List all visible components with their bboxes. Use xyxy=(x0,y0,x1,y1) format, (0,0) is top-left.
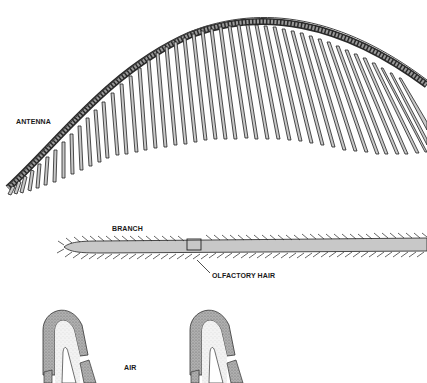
olfactory-hair-leader xyxy=(197,260,210,273)
branch-label: BRANCH xyxy=(112,225,143,232)
hair-cross-section-right xyxy=(190,310,243,383)
hair-cross-section-left xyxy=(43,310,96,383)
branch-rod xyxy=(57,233,427,273)
antenna-illustration xyxy=(0,0,427,383)
antenna-label: ANTENNA xyxy=(16,118,51,125)
air-label: AIR xyxy=(124,364,136,371)
antenna-branches xyxy=(8,25,427,195)
olfactory-hair-label: OLFACTORY HAIR xyxy=(212,272,275,279)
